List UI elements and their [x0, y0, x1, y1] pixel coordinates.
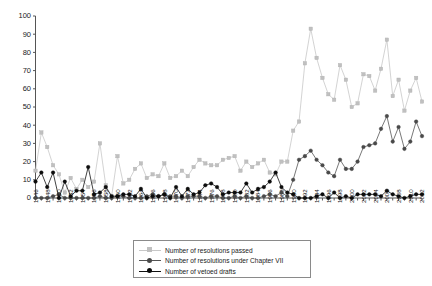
- data-point-resolutions-passed: [227, 156, 230, 159]
- data-point-resolutions-passed: [321, 76, 324, 79]
- y-axis-tick-label: 90: [23, 30, 31, 39]
- data-point-chapter-vii: [63, 196, 67, 200]
- data-point-chapter-vii: [262, 194, 266, 198]
- data-point-vetoed-drafts: [373, 193, 377, 197]
- data-point-vetoed-drafts: [151, 194, 155, 198]
- data-point-resolutions-passed: [403, 109, 406, 112]
- data-point-vetoed-drafts: [34, 180, 38, 184]
- data-point-chapter-vii: [81, 196, 85, 200]
- data-point-vetoed-drafts: [397, 194, 401, 198]
- data-point-vetoed-drafts: [338, 196, 342, 200]
- data-point-resolutions-passed: [209, 164, 212, 167]
- data-point-vetoed-drafts: [139, 187, 143, 191]
- series-resolutions-passed: [34, 27, 424, 198]
- data-point-chapter-vii: [239, 196, 243, 200]
- data-point-chapter-vii: [303, 154, 307, 158]
- data-point-resolutions-passed: [198, 158, 201, 161]
- data-point-resolutions-passed: [51, 164, 54, 167]
- data-point-vetoed-drafts: [327, 196, 331, 200]
- data-point-chapter-vii: [356, 160, 360, 164]
- data-point-vetoed-drafts: [286, 191, 290, 195]
- data-point-resolutions-passed: [309, 27, 312, 30]
- data-point-chapter-vii: [215, 194, 219, 198]
- data-point-vetoed-drafts: [127, 193, 131, 197]
- data-point-resolutions-passed: [221, 158, 224, 161]
- data-point-resolutions-passed: [239, 169, 242, 172]
- data-point-chapter-vii: [186, 194, 190, 198]
- data-point-vetoed-drafts: [45, 185, 49, 189]
- data-point-resolutions-passed: [332, 98, 335, 101]
- data-point-resolutions-passed: [356, 102, 359, 105]
- data-point-chapter-vii: [245, 194, 249, 198]
- data-point-resolutions-passed: [280, 160, 283, 163]
- data-point-resolutions-passed: [233, 154, 236, 157]
- data-point-chapter-vii: [344, 167, 348, 171]
- data-point-resolutions-passed: [409, 89, 412, 92]
- data-point-chapter-vii: [291, 178, 295, 182]
- data-point-chapter-vii: [51, 194, 55, 198]
- data-point-chapter-vii: [397, 125, 401, 129]
- data-point-vetoed-drafts: [168, 196, 172, 200]
- legend-item-vetoed-drafts: Number of vetoed drafts: [139, 266, 305, 277]
- data-point-resolutions-passed: [116, 154, 119, 157]
- y-axis-tick-label: 40: [23, 121, 31, 130]
- data-point-chapter-vii: [221, 196, 225, 200]
- data-point-chapter-vii: [139, 196, 143, 200]
- data-point-vetoed-drafts: [245, 182, 249, 186]
- data-point-resolutions-passed: [98, 142, 101, 145]
- y-axis-tick-label: 100: [18, 11, 31, 20]
- legend-marker-chapter-vii: [147, 258, 152, 263]
- data-point-chapter-vii: [274, 194, 278, 198]
- data-point-vetoed-drafts: [385, 189, 389, 193]
- data-point-resolutions-passed: [81, 178, 84, 181]
- x-axis-tick-label: 1946: [32, 189, 39, 203]
- data-point-resolutions-passed: [385, 38, 388, 41]
- data-point-vetoed-drafts: [233, 191, 237, 195]
- data-point-resolutions-passed: [368, 74, 371, 77]
- data-point-vetoed-drafts: [362, 193, 366, 197]
- data-point-vetoed-drafts: [350, 196, 354, 200]
- legend-swatch-resolutions-passed: [139, 246, 161, 255]
- data-point-vetoed-drafts: [98, 191, 102, 195]
- data-point-vetoed-drafts: [414, 193, 418, 197]
- data-point-resolutions-passed: [145, 176, 148, 179]
- legend-swatch-chapter-vii: [139, 256, 161, 265]
- data-point-vetoed-drafts: [297, 196, 301, 200]
- x-axis-tick-label: 1948: [44, 189, 51, 203]
- data-point-chapter-vii: [338, 158, 342, 162]
- data-point-vetoed-drafts: [204, 183, 208, 187]
- data-point-resolutions-passed: [128, 178, 131, 181]
- data-point-resolutions-passed: [350, 105, 353, 108]
- data-point-resolutions-passed: [122, 182, 125, 185]
- data-point-resolutions-passed: [168, 176, 171, 179]
- y-axis: 0102030405060708090100: [18, 11, 35, 202]
- data-point-resolutions-passed: [87, 185, 90, 188]
- data-point-vetoed-drafts: [344, 194, 348, 198]
- data-point-vetoed-drafts: [262, 185, 266, 189]
- data-point-chapter-vii: [297, 158, 301, 162]
- data-point-resolutions-passed: [327, 93, 330, 96]
- data-point-resolutions-passed: [139, 162, 142, 165]
- data-point-resolutions-passed: [338, 63, 341, 66]
- data-point-vetoed-drafts: [69, 194, 73, 198]
- data-point-chapter-vii: [362, 145, 366, 149]
- data-point-vetoed-drafts: [163, 193, 167, 197]
- data-point-chapter-vii: [86, 196, 90, 200]
- data-point-vetoed-drafts: [116, 194, 120, 198]
- data-point-chapter-vii: [321, 163, 325, 167]
- data-point-vetoed-drafts: [40, 171, 44, 175]
- data-point-resolutions-passed: [315, 56, 318, 59]
- data-series-group: [34, 27, 424, 200]
- data-point-vetoed-drafts: [122, 193, 126, 197]
- chart-legend: Number of resolutions passed Number of r…: [133, 240, 311, 278]
- data-point-resolutions-passed: [69, 176, 72, 179]
- legend-swatch-vetoed-drafts: [139, 267, 161, 276]
- data-point-resolutions-passed: [373, 89, 376, 92]
- data-point-chapter-vii: [414, 120, 418, 124]
- data-point-resolutions-passed: [133, 167, 136, 170]
- data-point-chapter-vii: [233, 194, 237, 198]
- data-point-resolutions-passed: [34, 169, 37, 172]
- data-point-chapter-vii: [309, 149, 313, 153]
- data-point-resolutions-passed: [379, 67, 382, 70]
- data-point-chapter-vii: [256, 196, 260, 200]
